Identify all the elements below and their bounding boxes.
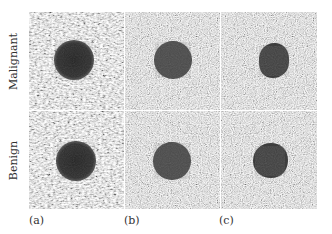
panel-benign-b xyxy=(125,111,220,209)
ultrasound-image-grid xyxy=(29,12,317,209)
panel-malignant-a xyxy=(29,12,124,110)
panel-malignant-b xyxy=(125,12,220,110)
speckle-image xyxy=(29,12,124,110)
speckle-image xyxy=(125,111,220,209)
column-label-a: (a) xyxy=(29,214,44,227)
panel-benign-a xyxy=(29,111,124,209)
speckle-image xyxy=(125,12,220,110)
row-label-malignant: Malignant xyxy=(2,12,26,110)
panel-benign-c xyxy=(221,111,317,209)
column-label-c: (c) xyxy=(219,214,234,227)
speckle-image xyxy=(221,12,317,110)
speckle-image xyxy=(221,111,317,209)
column-label-b: (b) xyxy=(124,214,140,227)
panel-malignant-c xyxy=(221,12,317,110)
speckle-image xyxy=(29,111,124,209)
row-label-benign: Benign xyxy=(2,111,26,209)
row-label-malignant-text: Malignant xyxy=(8,32,21,89)
row-label-benign-text: Benign xyxy=(8,140,21,179)
